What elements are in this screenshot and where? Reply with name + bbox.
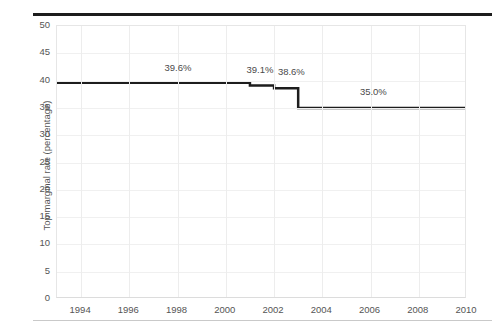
data-point-label: 35.0%	[360, 87, 387, 97]
y-axis-tick-label: 40	[28, 75, 50, 85]
y-axis-tick-label: 20	[28, 184, 50, 194]
gridline-vertical	[371, 26, 372, 297]
y-axis-tick-label: 0	[28, 293, 50, 303]
x-axis-tick-label: 2010	[446, 305, 486, 315]
data-point-label: 38.6%	[278, 67, 305, 77]
gridline-horizontal	[57, 81, 465, 82]
gridline-vertical	[322, 26, 323, 297]
gridline-vertical	[274, 26, 275, 297]
y-axis-tick-label: 15	[28, 211, 50, 221]
gridline-vertical	[129, 26, 130, 297]
bottom-divider-rule	[33, 320, 492, 321]
data-point-label: 39.6%	[165, 63, 192, 73]
gridline-vertical	[419, 26, 420, 297]
y-axis-tick-label: 30	[28, 129, 50, 139]
step-line-path	[57, 83, 466, 108]
gridline-horizontal	[57, 190, 465, 191]
x-axis-tick-label: 2004	[301, 305, 341, 315]
gridline-vertical	[81, 26, 82, 297]
x-axis-tick-label: 1994	[60, 305, 100, 315]
gridline-horizontal	[57, 135, 465, 136]
y-axis-tick-label: 25	[28, 157, 50, 167]
data-point-label: 39.1%	[247, 65, 274, 75]
x-axis-tick-label: 2000	[205, 305, 245, 315]
gridline-horizontal	[57, 244, 465, 245]
gridline-horizontal	[57, 217, 465, 218]
chart-container: Top marginal rate (percentage) 051015202…	[0, 0, 492, 334]
gridline-horizontal	[57, 272, 465, 273]
x-axis-tick-label: 2006	[350, 305, 390, 315]
gridline-horizontal	[57, 53, 465, 54]
gridline-vertical	[226, 26, 227, 297]
x-axis-tick-label: 1996	[108, 305, 148, 315]
y-axis-tick-label: 50	[28, 20, 50, 30]
y-axis-tick-label: 45	[28, 47, 50, 57]
y-axis-tick-labels: 05101520253035404550	[20, 0, 50, 334]
x-axis-tick-label: 2002	[253, 305, 293, 315]
y-axis-tick-label: 5	[28, 266, 50, 276]
x-axis-tick-label: 1998	[157, 305, 197, 315]
y-axis-tick-label: 10	[28, 238, 50, 248]
gridline-horizontal	[57, 108, 465, 109]
gridline-horizontal	[57, 163, 465, 164]
x-axis-tick-label: 2008	[398, 305, 438, 315]
top-divider-rule	[33, 13, 492, 16]
y-axis-tick-label: 35	[28, 102, 50, 112]
